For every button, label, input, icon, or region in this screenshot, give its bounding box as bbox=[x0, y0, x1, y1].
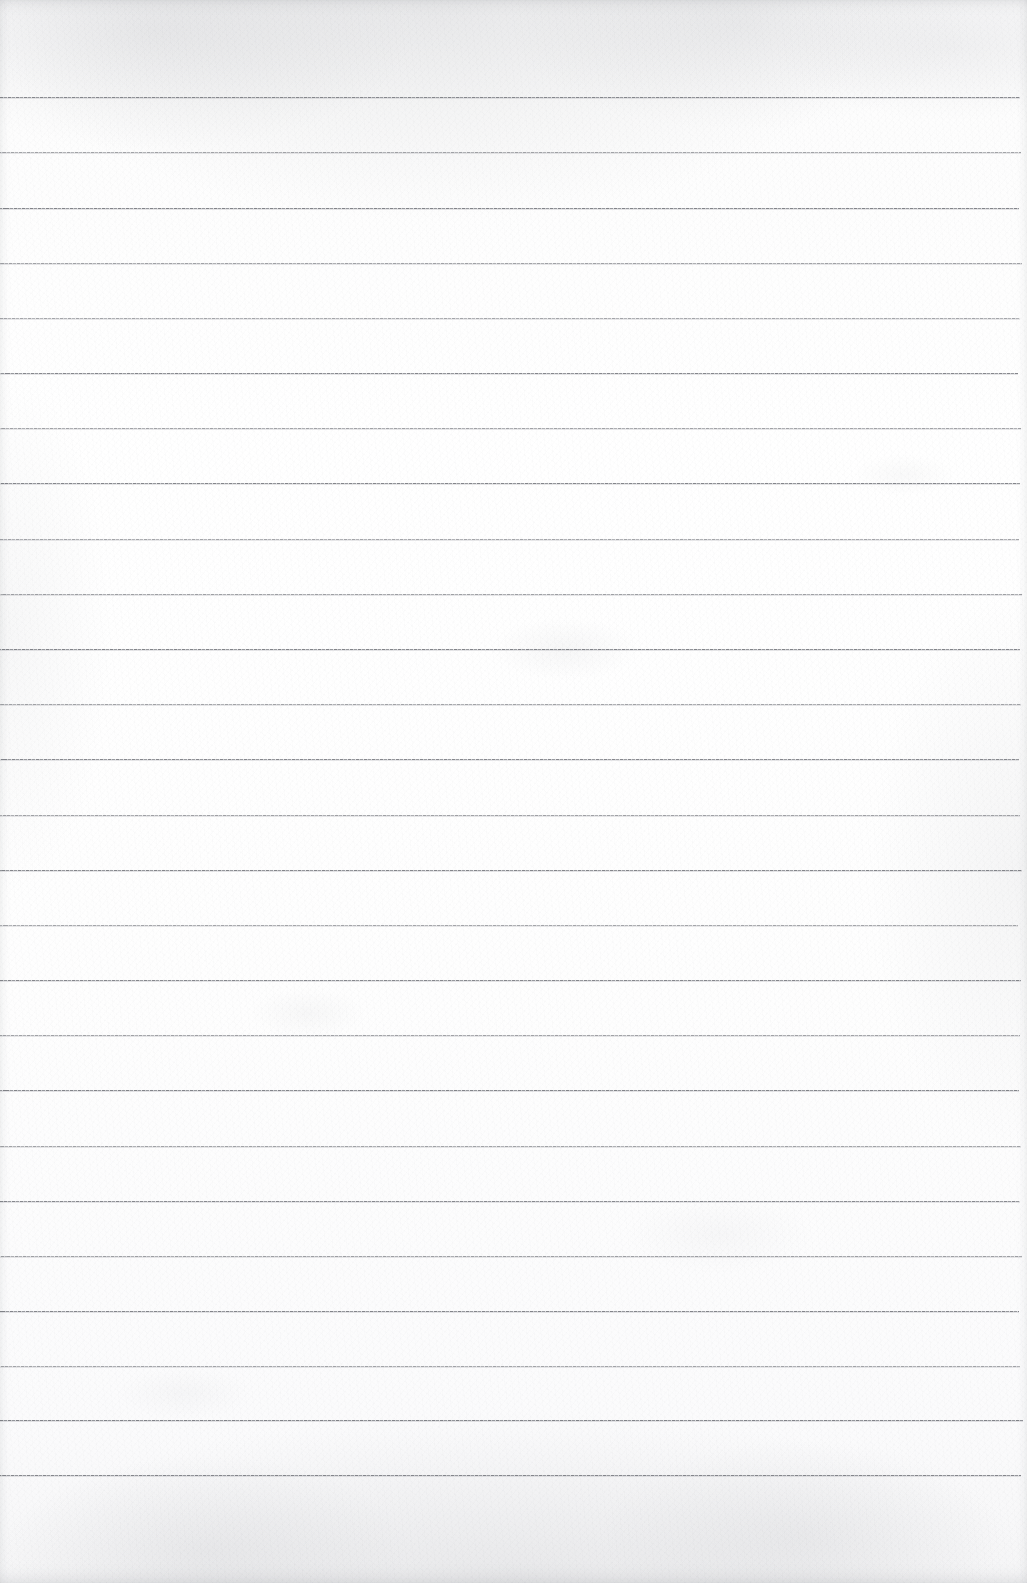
scanned-page bbox=[0, 0, 1027, 1583]
paper-background bbox=[0, 0, 1027, 1583]
